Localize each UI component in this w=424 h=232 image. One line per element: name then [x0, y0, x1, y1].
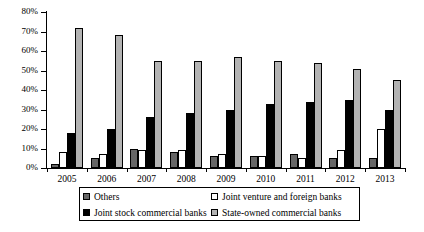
legend-swatch-icon — [211, 209, 218, 216]
y-axis-tick — [41, 149, 46, 150]
bar-2013-series-2 — [385, 110, 393, 169]
x-axis-tick — [206, 168, 207, 172]
bar-2008-series-1 — [178, 150, 186, 168]
y-axis-tick — [41, 32, 46, 33]
bar-group — [130, 12, 162, 168]
x-axis-tick — [405, 168, 406, 172]
bar-2009-series-0 — [210, 156, 218, 168]
y-axis-tick — [41, 90, 46, 91]
legend-label: Others — [94, 192, 119, 202]
bar-chart: 0%10%20%30%40%50%60%70%80% 2005200620072… — [0, 0, 424, 232]
y-axis-tick — [41, 168, 46, 169]
x-axis-line — [46, 168, 406, 169]
legend-swatch-icon — [83, 209, 90, 216]
y-axis-tick — [41, 51, 46, 52]
x-axis-tick — [87, 168, 88, 172]
bar-2008-series-2 — [186, 113, 194, 168]
bar-2011-series-1 — [298, 158, 306, 168]
y-axis-tick-label: 20% — [2, 124, 38, 133]
y-axis-tick-label: 40% — [2, 85, 38, 94]
bar-2005-series-1 — [59, 152, 67, 168]
bar-2012-series-0 — [329, 158, 337, 168]
legend-label: Joint venture and foreign banks — [222, 192, 342, 202]
y-axis-tick-label: 30% — [2, 105, 38, 114]
y-axis-tick — [41, 12, 46, 13]
y-axis-tick-label: 70% — [2, 27, 38, 36]
bar-2010-series-0 — [250, 156, 258, 168]
bar-group — [290, 12, 322, 168]
x-axis-tick — [286, 168, 287, 172]
y-axis-tick — [41, 110, 46, 111]
bar-group — [369, 12, 401, 168]
bar-2005-series-0 — [51, 164, 59, 168]
bar-group — [91, 12, 123, 168]
y-axis-tick-label: 60% — [2, 46, 38, 55]
bar-2007-series-1 — [138, 150, 146, 168]
bar-2012-series-1 — [337, 150, 345, 168]
y-axis-tick-label: 80% — [2, 7, 38, 16]
bar-group — [51, 12, 83, 168]
bar-2011-series-2 — [306, 102, 314, 168]
bar-2009-series-1 — [218, 154, 226, 168]
legend-label: Joint stock commercial banks — [94, 208, 207, 218]
legend-item[interactable]: Joint venture and foreign banks — [211, 189, 364, 205]
bar-2007-series-3 — [154, 61, 162, 168]
legend-swatch-icon — [83, 193, 90, 200]
bar-2005-series-2 — [67, 133, 75, 168]
x-axis-tick — [47, 168, 48, 172]
bar-2006-series-1 — [99, 154, 107, 168]
bar-2006-series-2 — [107, 129, 115, 168]
x-axis-label-2013: 2013 — [362, 174, 408, 185]
legend-item[interactable]: Others — [83, 189, 211, 205]
bar-2009-series-3 — [234, 57, 242, 168]
bar-2007-series-2 — [146, 117, 154, 168]
bar-group — [210, 12, 242, 168]
y-axis-tick — [41, 129, 46, 130]
bar-2011-series-0 — [290, 154, 298, 168]
bar-2010-series-1 — [258, 156, 266, 168]
bar-2013-series-0 — [369, 158, 377, 168]
bar-2010-series-3 — [274, 61, 282, 168]
y-axis-tick-label: 0% — [2, 163, 38, 172]
bar-group — [250, 12, 282, 168]
bar-2006-series-0 — [91, 158, 99, 168]
bar-group — [170, 12, 202, 168]
bar-2006-series-3 — [115, 35, 123, 168]
bar-2012-series-2 — [345, 100, 353, 168]
x-axis-tick — [127, 168, 128, 172]
bar-2012-series-3 — [353, 69, 361, 168]
bar-2007-series-0 — [130, 149, 138, 169]
legend-label: State-owned commercial banks — [222, 208, 341, 218]
legend-item[interactable]: State-owned commercial banks — [211, 205, 364, 221]
bar-2008-series-3 — [194, 61, 202, 168]
bar-group — [329, 12, 361, 168]
bar-2008-series-0 — [170, 152, 178, 168]
x-axis-tick — [166, 168, 167, 172]
plot-area — [47, 12, 405, 168]
chart-legend: OthersJoint venture and foreign banksJoi… — [79, 187, 360, 221]
x-axis-tick — [365, 168, 366, 172]
bar-2005-series-3 — [75, 28, 83, 168]
bar-2010-series-2 — [266, 104, 274, 168]
x-axis-tick — [246, 168, 247, 172]
legend-swatch-icon — [211, 193, 218, 200]
y-axis-tick-label: 50% — [2, 66, 38, 75]
y-axis-tick — [41, 71, 46, 72]
bar-2009-series-2 — [226, 110, 234, 169]
y-axis-tick-label: 10% — [2, 144, 38, 153]
x-axis-tick — [325, 168, 326, 172]
legend-item[interactable]: Joint stock commercial banks — [83, 205, 211, 221]
bar-2013-series-1 — [377, 129, 385, 168]
bar-2013-series-3 — [393, 80, 401, 168]
bar-2011-series-3 — [314, 63, 322, 168]
